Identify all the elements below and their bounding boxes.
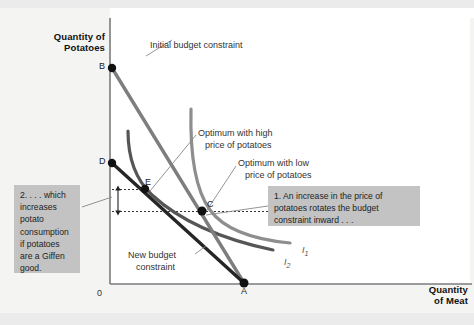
callout-one: 1. An increase in the price of potatoes …: [268, 186, 420, 226]
consumption-change-arrow: [115, 186, 121, 216]
point-D-dot: [108, 159, 116, 167]
point-label-B: B: [99, 61, 105, 72]
point-C-dot: [198, 207, 207, 216]
curve-label-i2: I2: [274, 246, 290, 282]
annotation-optimum-low-line2: price of potatoes: [245, 170, 312, 181]
annotation-optimum-high-line1: Optimum with high: [198, 128, 273, 139]
curve-label-i1: I1: [292, 234, 308, 270]
leader-callout-two: [82, 197, 112, 207]
callout-two: 2. . . . which increases potato consumpt…: [14, 185, 80, 273]
annotation-new-budget-line1: New budget: [128, 250, 176, 261]
point-label-A: A: [241, 286, 247, 297]
point-B-dot: [108, 64, 116, 72]
point-label-D: D: [99, 156, 106, 167]
annotation-initial-budget: Initial budget constraint: [150, 40, 243, 51]
curve-label-i1-sub: 1: [305, 250, 309, 257]
point-label-C: C: [207, 199, 214, 210]
x-axis-title-line2: of Meat: [398, 295, 468, 307]
leader-callout-one: [206, 206, 268, 215]
y-axis-title-line2: Potatoes: [51, 42, 105, 54]
annotation-new-budget-line2: constraint: [136, 262, 175, 273]
curve-label-i2-sub: 2: [287, 262, 291, 269]
point-label-E: E: [145, 177, 151, 188]
figure-container: Quantity of Potatoes Quantity of Meat 0 …: [0, 0, 474, 325]
leader-new-budget: [195, 246, 206, 254]
origin-label: 0: [97, 288, 102, 299]
annotation-optimum-high-line2: price of potatoes: [205, 140, 272, 151]
annotation-optimum-low-line1: Optimum with low: [238, 158, 309, 169]
